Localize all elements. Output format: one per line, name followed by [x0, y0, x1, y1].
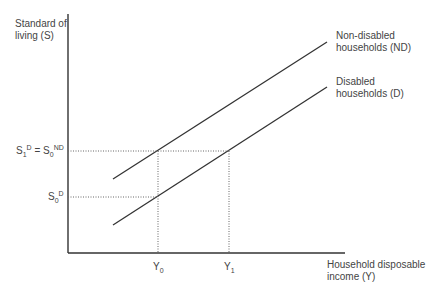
nd-label-line2: households (ND) — [336, 42, 411, 54]
s0d-base: S — [48, 191, 55, 202]
s0d-sup: D — [59, 190, 64, 197]
y1-base: Y — [224, 261, 231, 272]
y0-label: Y0 — [153, 261, 164, 273]
s0nd-sub: 0 — [50, 151, 54, 158]
s0nd-base: S — [43, 145, 50, 156]
x-axis-label-line1: Household disposable — [327, 259, 425, 271]
s0nd-sup: ND — [54, 144, 64, 151]
nd-label-line1: Non-disabled — [336, 30, 411, 42]
equals-sign: = — [32, 145, 43, 156]
y-axis-label: Standard of living (S) — [15, 18, 67, 42]
y0-sub: 0 — [160, 267, 164, 274]
y-axis-label-line2: living (S) — [15, 30, 67, 42]
d-label: Disabled households (D) — [336, 76, 404, 100]
s0d-label: S0D — [48, 191, 64, 203]
s1-base: S — [16, 145, 23, 156]
s1-equals-s0nd-label: S1D = S0ND — [16, 145, 64, 157]
nd-label: Non-disabled households (ND) — [336, 30, 411, 54]
x-axis-label-line2: income (Y) — [327, 271, 425, 283]
y1-label: Y1 — [224, 261, 235, 273]
s1-sub: 1 — [23, 151, 27, 158]
non-disabled-line — [113, 42, 327, 179]
d-label-line1: Disabled — [336, 76, 404, 88]
d-label-line2: households (D) — [336, 88, 404, 100]
s0d-sub: 0 — [55, 197, 59, 204]
disabled-line — [113, 87, 327, 225]
y-axis-label-line1: Standard of — [15, 18, 67, 30]
y0-base: Y — [153, 261, 160, 272]
y1-sub: 1 — [231, 267, 235, 274]
x-axis-label: Household disposable income (Y) — [327, 259, 425, 283]
